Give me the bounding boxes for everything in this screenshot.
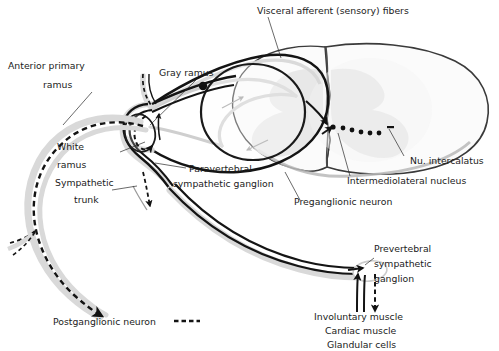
label-gray-ramus: Gray ramus xyxy=(159,67,214,78)
label-paravertebral-line1: Paravertebral xyxy=(189,163,252,174)
label-target-line3: Glandular cells xyxy=(327,339,396,350)
trunk-ascending-arrow xyxy=(158,114,160,140)
label-target-line1: Involuntary muscle xyxy=(314,311,403,322)
label-visceral-afferent: Visceral afferent (sensory) fibers xyxy=(257,5,409,16)
target-line-a xyxy=(357,274,358,312)
label-sympathetic-trunk-line1: Sympathetic xyxy=(55,177,114,188)
label-anterior-primary-ramus-line1: Anterior primary xyxy=(8,60,85,71)
label-intermediolateral-nucleus: Intermediolateral nucleus xyxy=(347,175,466,186)
apr-branch-fork-sheath xyxy=(8,234,33,249)
figure-canvas: Visceral afferent (sensory) fibers Gray … xyxy=(0,0,499,351)
target-line-b xyxy=(364,275,365,312)
label-prevertebral-line3: ganglion xyxy=(374,273,414,284)
label-prevertebral-line2: sympathetic xyxy=(374,258,432,269)
label-preganglionic-neuron: Preganglionic neuron xyxy=(294,196,392,207)
label-postganglionic-neuron: Postganglionic neuron xyxy=(53,316,156,327)
label-anterior-primary-ramus-line2: ramus xyxy=(43,79,72,90)
label-sympathetic-trunk-line2: trunk xyxy=(74,194,99,205)
rootlet-stub-b xyxy=(149,74,156,104)
label-target-line2: Cardiac muscle xyxy=(325,325,397,336)
trunk-descending-dashed xyxy=(143,172,150,206)
postganglionic-dashed-fiber xyxy=(34,122,143,316)
leader-sympathetic-trunk xyxy=(112,186,137,190)
label-white-ramus-line1: White xyxy=(57,141,84,152)
label-white-ramus-line2: ramus xyxy=(57,159,86,170)
label-paravertebral-line2: sympathetic ganglion xyxy=(173,178,274,189)
dorsal-root-ganglion-body xyxy=(201,64,305,160)
trunk-descending-solid xyxy=(133,186,147,210)
nu-intercalatus-mark xyxy=(387,126,394,128)
apr-sheath-outer xyxy=(40,128,146,315)
anatomy-diagram-svg: Visceral afferent (sensory) fibers Gray … xyxy=(0,0,499,351)
label-prevertebral-line1: Prevertebral xyxy=(374,243,431,254)
label-nu-intercalatus: Nu. intercalatus xyxy=(410,155,484,166)
